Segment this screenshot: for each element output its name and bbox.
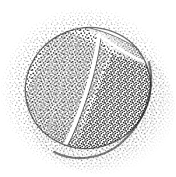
figure-root: Seed, dorsal view stipple engraving (0, 0, 176, 177)
seed-illustration-svg (0, 0, 176, 177)
